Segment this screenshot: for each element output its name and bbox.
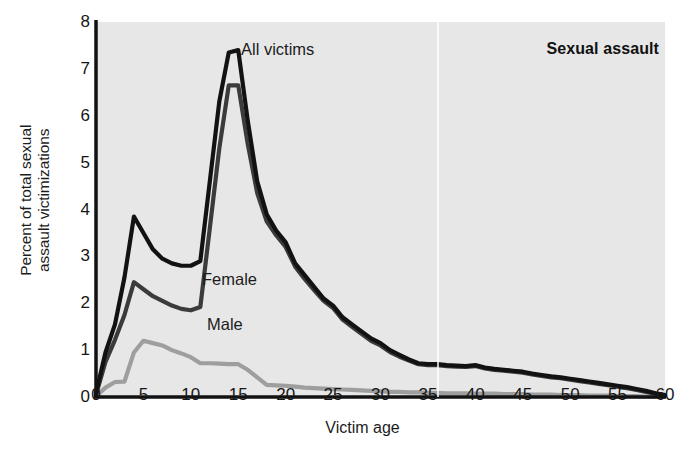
x-axis-label: Victim age <box>0 419 683 437</box>
chart-title: Sexual assault <box>546 40 659 58</box>
x-tick-55: 55 <box>608 385 627 405</box>
x-tick-5: 5 <box>139 385 148 405</box>
x-tick-30: 30 <box>371 385 390 405</box>
x-tick-0: 0 <box>91 385 100 405</box>
x-tick-10: 10 <box>181 385 200 405</box>
x-tick-20: 20 <box>276 385 295 405</box>
x-axis-label-text: Victim age <box>325 419 399 436</box>
x-tick-25: 25 <box>324 385 343 405</box>
x-tick-15: 15 <box>229 385 248 405</box>
x-tick-50: 50 <box>561 385 580 405</box>
x-tick-60: 60 <box>656 385 675 405</box>
series-label-all-victims: All victims <box>241 40 314 59</box>
x-tick-40: 40 <box>466 385 485 405</box>
scan-artifact-line <box>437 22 439 397</box>
chart-figure: Percent of total sexual assault victimiz… <box>0 0 683 452</box>
x-tick-45: 45 <box>513 385 532 405</box>
series-label-male: Male <box>207 315 243 334</box>
series-label-female: Female <box>202 270 257 289</box>
x-tick-35: 35 <box>418 385 437 405</box>
